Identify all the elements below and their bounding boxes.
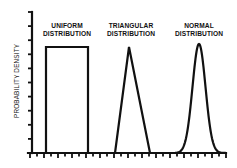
triangular-shape <box>115 47 150 153</box>
y-axis-label: PROBABILITY DENSITY <box>13 43 20 118</box>
uniform-label-line-2: DISTRIBUTION <box>43 30 91 37</box>
distribution-chart: PROBABILITY DENSITY UNIFORM DISTRIBUTION… <box>0 0 237 168</box>
normal-distribution: NORMAL DISTRIBUTION <box>175 22 226 153</box>
normal-bell-curve <box>175 44 226 153</box>
normal-label-line-2: DISTRIBUTION <box>175 30 223 37</box>
uniform-label-line-1: UNIFORM <box>51 22 83 29</box>
uniform-distribution: UNIFORM DISTRIBUTION <box>43 22 91 153</box>
normal-label-line-1: NORMAL <box>184 22 214 29</box>
uniform-rectangle <box>46 47 88 153</box>
triangular-label-line-2: DISTRIBUTION <box>107 30 155 37</box>
triangular-label-line-1: TRIANGULAR <box>109 22 154 29</box>
triangular-distribution: TRIANGULAR DISTRIBUTION <box>107 22 155 153</box>
